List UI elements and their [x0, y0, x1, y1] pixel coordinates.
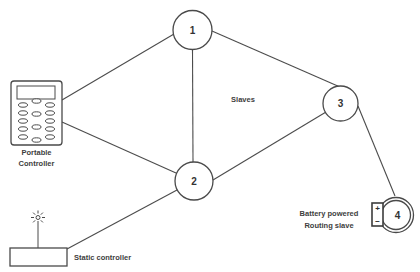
node-3-label: 3 — [338, 98, 344, 109]
battery-powered-label-line2: Routing slave — [304, 221, 353, 230]
network-diagram-page: 1 2 3 + − 4 — [0, 0, 420, 272]
keypad-button — [19, 135, 28, 139]
edge-node2-static-controller — [67, 190, 177, 249]
keypad-button — [46, 103, 55, 107]
keypad-button — [32, 125, 41, 129]
keypad-button — [32, 99, 41, 103]
node-4-battery-routing-slave: + − 4 — [372, 198, 414, 233]
portable-controller-display — [17, 86, 55, 99]
edge-node1-node2 — [193, 50, 194, 163]
battery-powered-label-line1: Battery powered — [300, 209, 359, 218]
portable-controller-device: Portable Controller — [11, 81, 62, 168]
static-controller-device: Static controller — [10, 211, 131, 267]
node-1: 1 — [173, 11, 212, 50]
portable-controller-label-line2: Controller — [19, 159, 55, 168]
keypad-button — [32, 138, 41, 142]
antenna-radiating-icon — [31, 211, 45, 223]
portable-controller-label-line1: Portable — [21, 148, 51, 157]
keypad-button — [32, 112, 41, 116]
edge-node1-node3 — [212, 31, 340, 87]
node-4-label: 4 — [395, 210, 401, 221]
keypad-button — [19, 103, 28, 107]
keypad-button — [46, 111, 55, 115]
node-2-label: 2 — [191, 176, 197, 187]
edge-portable-controller-node1 — [62, 34, 174, 100]
keypad-button — [19, 111, 28, 115]
static-controller-label: Static controller — [74, 253, 131, 262]
static-controller-body — [10, 248, 67, 266]
battery-minus-sign: − — [375, 217, 380, 226]
keypad-button — [46, 135, 55, 139]
edge-node3-node4 — [358, 106, 395, 196]
keypad-button — [46, 127, 55, 131]
network-diagram: 1 2 3 + − 4 — [0, 0, 420, 272]
edge-node2-node3 — [213, 112, 326, 180]
node-3: 3 — [323, 86, 358, 121]
node-2: 2 — [175, 162, 213, 200]
keypad-button — [19, 127, 28, 131]
battery-plus-sign: + — [375, 204, 380, 213]
keypad-button — [19, 119, 28, 123]
edge-portable-controller-node2 — [62, 122, 176, 173]
keypad-button — [46, 119, 55, 123]
node-1-label: 1 — [190, 25, 196, 36]
slaves-label: Slaves — [231, 95, 255, 104]
